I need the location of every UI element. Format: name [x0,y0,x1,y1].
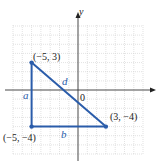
point-label-bottom-left: (−5, −4) [3,133,36,143]
y-axis-label: y [79,7,83,17]
coordinate-plane-figure: y 0 (−5, 3) (−5, −4) (3, −4) a b d [0,0,158,165]
x-axis-arrow-icon [150,88,156,93]
segment-label-d: d [62,76,68,87]
segment-label-a: a [23,90,29,101]
point-label-top: (−5, 3) [33,52,60,62]
segment-label-b: b [61,129,67,140]
vertex-bottom-right [104,124,108,128]
point-label-bottom-right: (3, −4) [110,112,137,122]
vertex-bottom-left [29,124,33,128]
origin-label: 0 [80,93,85,103]
